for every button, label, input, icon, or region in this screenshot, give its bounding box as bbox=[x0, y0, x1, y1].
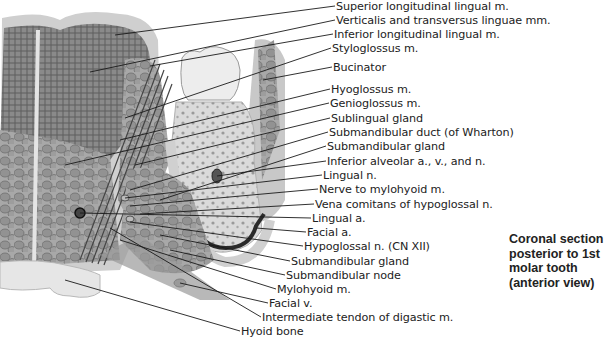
caption-line: molar tooth bbox=[509, 261, 603, 276]
label-nerve-to-mylohyoid: Nerve to mylohyoid m. bbox=[319, 183, 445, 196]
molar-crown bbox=[181, 47, 240, 100]
label-facial-artery: Facial a. bbox=[307, 226, 352, 239]
label-facial-vein: Facial v. bbox=[269, 297, 312, 310]
label-intermediate-tendon: Intermediate tendon of digastic m. bbox=[262, 311, 453, 324]
label-submandibular-node: Submandibular node bbox=[286, 269, 401, 282]
label-submandibular-duct: Submandibular duct (of Wharton) bbox=[329, 126, 514, 139]
caption-line: (anterior view) bbox=[509, 276, 603, 291]
label-superior-longitudinal-lingual: Superior longitudinal lingual m. bbox=[336, 0, 509, 13]
label-hyoid-bone: Hyoid bone bbox=[241, 325, 304, 338]
label-bucinator: Bucinator bbox=[333, 61, 386, 74]
label-lingual-nerve: Lingual n. bbox=[323, 169, 377, 182]
label-styloglossus: Styloglossus m. bbox=[332, 42, 418, 55]
label-submandibular-gland-lower: Submandibular gland bbox=[291, 255, 409, 268]
label-inferior-longitudinal-lingual: Inferior longitudinal lingual m. bbox=[334, 28, 500, 41]
label-lingual-artery: Lingual a. bbox=[312, 212, 366, 225]
label-genioglossus: Genioglossus m. bbox=[330, 97, 421, 110]
label-sublingual-gland: Sublingual gland bbox=[331, 112, 423, 125]
label-inferior-alveolar: Inferior alveolar a., v., and n. bbox=[327, 155, 485, 168]
label-vena-comitans: Vena comitans of hypoglossal n. bbox=[315, 198, 493, 211]
label-hypoglossal-nerve: Hypoglossal n. (CN XII) bbox=[304, 240, 430, 253]
caption-line: Coronal section bbox=[509, 232, 603, 247]
figure-caption: Coronal section posterior to 1st molar t… bbox=[509, 232, 603, 290]
label-mylohyoid: Mylohyoid m. bbox=[277, 283, 351, 296]
label-submandibular-gland-upper: Submandibular gland bbox=[327, 140, 445, 153]
caption-line: posterior to 1st bbox=[509, 247, 603, 262]
label-hyoglossus: Hyoglossus m. bbox=[331, 83, 411, 96]
label-verticalis-transversus: Verticalis and transversus linguae mm. bbox=[336, 14, 551, 27]
